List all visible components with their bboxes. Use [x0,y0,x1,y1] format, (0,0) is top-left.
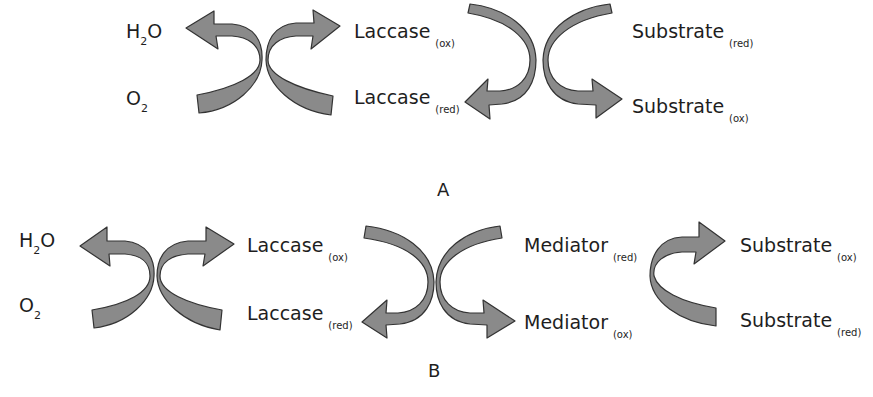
oxygen-label: O2 [126,87,148,109]
substrate-red-label: Substrate(red) [632,20,753,42]
substrate-ox-label: Substrate(ox) [632,95,749,117]
curved-arrow-icon [157,227,234,330]
curved-arrow-icon [436,226,515,338]
laccase-ox-label: Laccase(ox) [247,234,348,256]
curved-arrow-icon [80,227,154,328]
laccase-red-label: Laccase(red) [247,302,353,324]
curved-arrow-icon [186,11,262,113]
laccase-ox-label: Laccase(ox) [354,20,455,42]
substrate-red-label: Substrate(red) [740,309,861,331]
curved-arrow-icon [465,4,536,119]
curved-arrow-icon [362,226,434,338]
curved-arrow-icon [543,4,622,118]
panel-a-label: A [437,179,449,200]
substrate-ox-label: Substrate(ox) [740,234,857,256]
mediator-red-label: Mediator(red) [524,234,637,256]
curved-arrow-icon [266,10,340,115]
panel-b-label: B [428,360,440,381]
water-label: H2O [126,20,162,42]
mediator-ox-label: Mediator(ox) [524,311,632,333]
laccase-red-label: Laccase(red) [354,86,460,108]
oxygen-label: O2 [19,294,41,316]
water-label: H2O [19,229,55,251]
curved-arrow-icon [650,222,725,326]
